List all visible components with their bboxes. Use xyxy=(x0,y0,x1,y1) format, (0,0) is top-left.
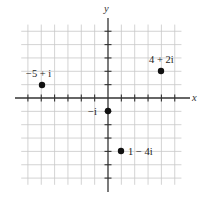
point-1-minus-4i: 1 − 4i xyxy=(118,146,153,157)
point-marker xyxy=(158,68,164,74)
point-marker xyxy=(105,108,111,114)
grid-lines xyxy=(21,25,181,185)
point-marker xyxy=(118,148,124,154)
point-label: 4 + 2i xyxy=(149,54,174,65)
point-marker xyxy=(39,82,45,88)
x-axis-label: x xyxy=(191,92,197,103)
point-neg5-plus-i: −5 + i xyxy=(26,68,51,88)
point-label: −i xyxy=(88,106,97,117)
point-label: 1 − 4i xyxy=(128,146,153,157)
complex-plane: x y −5 + i 4 + 2i −i 1 − 4i xyxy=(0,0,204,200)
point-label: −5 + i xyxy=(26,68,51,79)
y-axis-label: y xyxy=(103,3,109,14)
